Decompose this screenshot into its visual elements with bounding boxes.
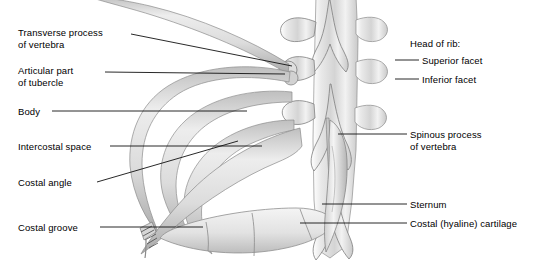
label-transverse-process-line2: of vertebra bbox=[18, 39, 64, 50]
label-body: Body bbox=[18, 106, 40, 118]
label-articular-part-of-tubercle: Articular part of tubercle bbox=[18, 65, 73, 88]
label-superior-facet: Superior facet bbox=[422, 55, 482, 67]
label-costal-groove: Costal groove bbox=[18, 222, 78, 234]
label-inferior-facet: Inferior facet bbox=[422, 74, 476, 86]
label-articular-part-line2: of tubercle bbox=[18, 77, 63, 88]
label-spinous-process: Spinous process of vertebra bbox=[410, 129, 482, 152]
label-articular-part-line1: Articular part bbox=[18, 65, 73, 76]
label-transverse-process-line1: Transverse process bbox=[18, 27, 103, 38]
anatomy-figure: Transverse process of vertebra Articular… bbox=[0, 0, 539, 263]
label-intercostal-space: Intercostal space bbox=[18, 141, 91, 153]
leader-transverse-process bbox=[131, 34, 292, 66]
label-spinous-process-line1: Spinous process bbox=[410, 129, 482, 140]
label-costal-angle: Costal angle bbox=[18, 177, 72, 189]
label-sternum: Sternum bbox=[410, 199, 447, 211]
label-costal-hyaline-cartilage: Costal (hyaline) cartilage bbox=[410, 218, 517, 230]
label-spinous-process-line2: of vertebra bbox=[410, 141, 456, 152]
label-head-of-rib: Head of rib: bbox=[410, 38, 460, 50]
label-transverse-process: Transverse process of vertebra bbox=[18, 27, 103, 50]
